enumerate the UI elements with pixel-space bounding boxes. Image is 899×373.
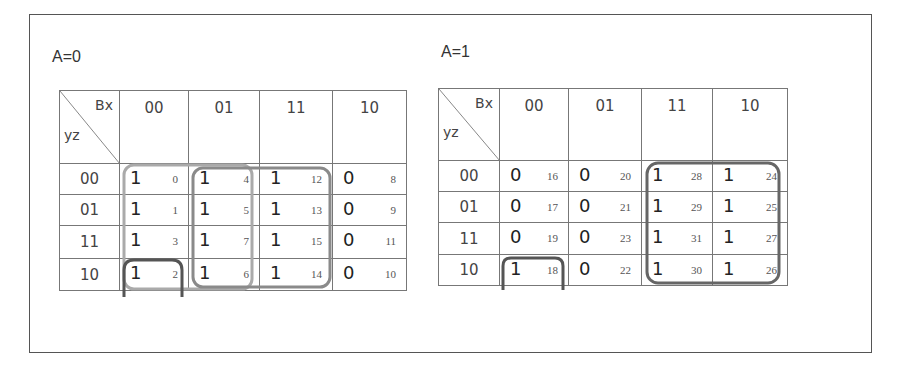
kmap-cell: 124 <box>713 161 788 192</box>
kmap-cell: 130 <box>642 255 713 286</box>
kmap-cell: 125 <box>713 192 788 223</box>
kmap-cell: 113 <box>260 195 333 226</box>
col-header: 00 <box>120 91 189 164</box>
kmap-cell: 022 <box>569 255 642 286</box>
corner-yz-label: yz <box>64 127 80 143</box>
row-header: 11 <box>60 226 120 259</box>
kmap-cell: 131 <box>642 223 713 255</box>
kmap-cell: 020 <box>569 161 642 192</box>
row-header: 00 <box>439 161 500 192</box>
map-title-a1: A=1 <box>441 43 470 61</box>
kmap-cell: 09 <box>333 195 407 226</box>
corner-yz-label: yz <box>443 124 459 140</box>
kmap-cell: 08 <box>333 164 407 195</box>
kmap-cell: 128 <box>642 161 713 192</box>
kmap-cell: 112 <box>260 164 333 195</box>
kmap-cell: 10 <box>120 164 189 195</box>
kmap-cell: 12 <box>120 259 189 291</box>
row-header: 11 <box>439 223 500 255</box>
kmap-cell: 115 <box>260 226 333 259</box>
col-header: 00 <box>500 89 569 161</box>
row-header: 01 <box>60 195 120 226</box>
kmap-cell: 019 <box>500 223 569 255</box>
col-header: 01 <box>569 89 642 161</box>
kmap-cell: 021 <box>569 192 642 223</box>
kmap-cell: 129 <box>642 192 713 223</box>
kmap-cell: 118 <box>500 255 569 286</box>
kmap-a0: Bx yz 00 01 11 10 00 10 14 112 08 01 11 … <box>59 90 407 291</box>
corner-bx-label: Bx <box>475 95 493 111</box>
kmap-cell: 011 <box>333 226 407 259</box>
kmap-cell: 127 <box>713 223 788 255</box>
row-header: 01 <box>439 192 500 223</box>
corner-header: Bx yz <box>439 89 500 161</box>
kmap-cell: 13 <box>120 226 189 259</box>
kmap-cell: 114 <box>260 259 333 291</box>
col-header: 11 <box>260 91 333 164</box>
kmap-cell: 126 <box>713 255 788 286</box>
row-header: 10 <box>439 255 500 286</box>
kmap-cell: 023 <box>569 223 642 255</box>
kmap-cell: 15 <box>189 195 260 226</box>
kmap-cell: 14 <box>189 164 260 195</box>
corner-bx-label: Bx <box>95 97 113 113</box>
col-header: 01 <box>189 91 260 164</box>
col-header: 10 <box>713 89 788 161</box>
kmap-cell: 11 <box>120 195 189 226</box>
kmap-cell: 16 <box>189 259 260 291</box>
col-header: 11 <box>642 89 713 161</box>
kmap-cell: 010 <box>333 259 407 291</box>
kmap-cell: 017 <box>500 192 569 223</box>
kmap-cell: 016 <box>500 161 569 192</box>
kmap-cell: 17 <box>189 226 260 259</box>
col-header: 10 <box>333 91 407 164</box>
row-header: 00 <box>60 164 120 195</box>
kmap-a1: Bx yz 00 01 11 10 00 016 020 128 124 01 … <box>438 88 788 286</box>
map-title-a0: A=0 <box>52 48 81 66</box>
row-header: 10 <box>60 259 120 291</box>
corner-header: Bx yz <box>60 91 120 164</box>
